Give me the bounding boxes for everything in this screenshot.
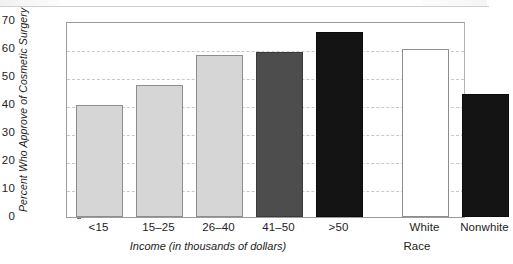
x-tick-label: Nonwhite — [449, 221, 513, 233]
x-axis-title-race: Race — [362, 240, 472, 252]
y-tick-label: 20 — [0, 154, 15, 166]
bar — [462, 94, 509, 217]
bar — [316, 32, 363, 217]
plot-area — [66, 22, 465, 218]
y-tick-label: 70 — [0, 14, 15, 26]
y-tick-label: 30 — [0, 126, 15, 138]
y-tick-label: 50 — [0, 70, 15, 82]
x-tick-label: >50 — [303, 221, 374, 233]
bar — [76, 105, 123, 217]
bar — [402, 49, 449, 217]
bar — [136, 85, 183, 217]
bar — [256, 52, 303, 217]
y-tick-label: 10 — [0, 182, 15, 194]
bar-series — [67, 23, 464, 217]
x-axis-title-income: Income (in thousands of dollars) — [58, 240, 358, 252]
y-tick-mark — [77, 218, 81, 219]
y-tick-label: 60 — [0, 42, 15, 54]
y-tick-label: 40 — [0, 98, 15, 110]
y-axis-title: Percent Who Approve of Cosmetic Surgery — [17, 12, 29, 212]
y-tick-label: 0 — [0, 210, 15, 222]
bar — [196, 55, 243, 217]
